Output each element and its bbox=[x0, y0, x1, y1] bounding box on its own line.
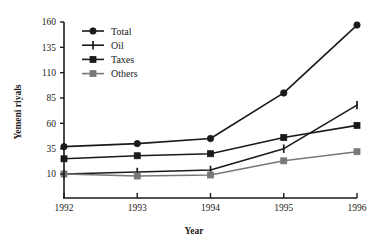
data-point-square-marker bbox=[90, 56, 96, 62]
chart-legend: TotalOilTaxesOthers bbox=[82, 26, 138, 80]
data-point-square-marker bbox=[134, 173, 140, 179]
y-tick-label: 110 bbox=[42, 68, 56, 78]
legend-item-label: Taxes bbox=[111, 54, 134, 65]
line-chart: 10356085110135160 19921993199419951996 Y… bbox=[0, 0, 387, 249]
series-line bbox=[64, 25, 357, 147]
data-point-square-marker bbox=[134, 153, 140, 159]
legend-item-others[interactable]: Others bbox=[82, 68, 138, 79]
data-point-square-marker bbox=[281, 135, 287, 141]
data-point-circle-marker bbox=[281, 90, 287, 96]
data-point-circle-marker bbox=[354, 22, 360, 28]
legend-item-label: Others bbox=[111, 68, 138, 79]
legend-item-total[interactable]: Total bbox=[82, 26, 132, 37]
data-point-square-marker bbox=[208, 151, 214, 157]
y-axis-title: Yemeni riyals bbox=[13, 84, 23, 139]
legend-item-taxes[interactable]: Taxes bbox=[82, 54, 134, 65]
data-point-square-marker bbox=[354, 122, 360, 128]
legend-item-oil[interactable]: Oil bbox=[82, 40, 124, 51]
x-tick-label: 1995 bbox=[274, 203, 293, 213]
legend-item-label: Total bbox=[111, 26, 132, 37]
y-tick-label: 60 bbox=[47, 119, 57, 129]
y-tick-label: 135 bbox=[42, 43, 57, 53]
x-tick-label: 1994 bbox=[201, 203, 220, 213]
data-point-circle-marker bbox=[134, 140, 140, 146]
axes bbox=[60, 22, 357, 198]
data-point-square-marker bbox=[208, 172, 214, 178]
legend-item-label: Oil bbox=[111, 40, 124, 51]
data-point-circle-marker bbox=[90, 28, 96, 34]
y-tick-label: 85 bbox=[47, 93, 57, 103]
chart-container: 10356085110135160 19921993199419951996 Y… bbox=[0, 0, 387, 249]
y-tick-label: 160 bbox=[42, 17, 57, 27]
y-axis-tick-labels: 10356085110135160 bbox=[42, 17, 57, 179]
plot-area bbox=[61, 22, 360, 179]
data-point-square-marker bbox=[90, 71, 96, 77]
y-tick-label: 35 bbox=[47, 144, 57, 154]
y-tick-label: 10 bbox=[47, 169, 57, 179]
data-point-circle-marker bbox=[207, 135, 213, 141]
x-axis-tick-labels: 19921993199419951996 bbox=[55, 203, 367, 213]
x-tick-label: 1993 bbox=[128, 203, 147, 213]
data-point-square-marker bbox=[354, 149, 360, 155]
x-tick-label: 1992 bbox=[55, 203, 74, 213]
data-point-square-marker bbox=[281, 158, 287, 164]
x-tick-label: 1996 bbox=[348, 203, 367, 213]
x-axis-title: Year bbox=[185, 226, 205, 236]
